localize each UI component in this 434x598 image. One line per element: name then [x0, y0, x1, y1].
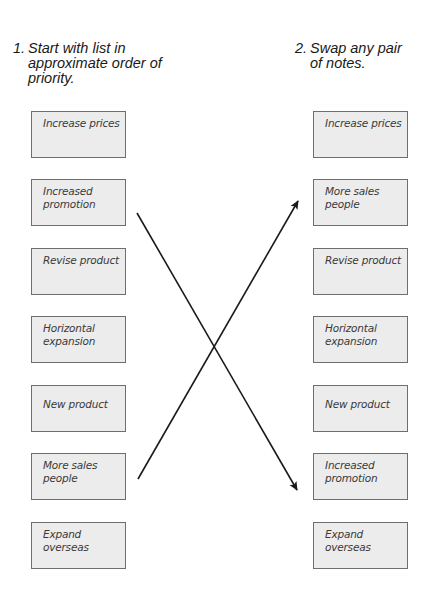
right-note-expand-overseas: Expand overseas	[313, 522, 408, 569]
left-note-revise-product: Revise product	[31, 248, 126, 295]
left-note-increased-promotion: Increased promotion	[31, 179, 126, 226]
left-note-expand-overseas: Expand overseas	[31, 522, 126, 569]
arrow-down-icon	[137, 213, 297, 490]
step-1-heading: 1. Start with list in approximate order …	[13, 41, 173, 86]
right-note-horizontal-expansion: Horizontal expansion	[313, 316, 408, 363]
left-note-horizontal-expansion: Horizontal expansion	[31, 316, 126, 363]
step-number: 2.	[295, 41, 307, 56]
step-text: Swap any pair of notes.	[295, 41, 415, 71]
swap-arrows	[0, 0, 434, 598]
step-text: Start with list in approximate order of …	[13, 41, 173, 86]
left-note-increase-prices: Increase prices	[31, 111, 126, 158]
left-note-new-product: New product	[31, 385, 126, 432]
right-note-increase-prices: Increase prices	[313, 111, 408, 158]
left-note-more-sales-people: More sales people	[31, 453, 126, 500]
step-2-heading: 2. Swap any pair of notes.	[295, 41, 415, 71]
arrow-up-icon	[138, 201, 298, 479]
step-number: 1.	[13, 41, 25, 56]
right-note-increased-promotion: Increased promotion	[313, 453, 408, 500]
right-note-new-product: New product	[313, 385, 408, 432]
right-note-revise-product: Revise product	[313, 248, 408, 295]
right-note-more-sales-people: More sales people	[313, 179, 408, 226]
